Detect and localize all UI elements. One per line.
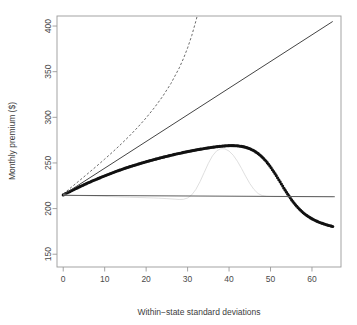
y-tick-label: 350: [43, 64, 53, 78]
x-axis-title: Within−state standard deviations: [137, 307, 260, 317]
x-tick-label: 0: [61, 274, 66, 284]
x-tick-label: 20: [141, 274, 151, 284]
x-tick-label: 30: [183, 274, 193, 284]
y-tick-label: 200: [43, 201, 53, 215]
y-tick-label: 150: [43, 247, 53, 261]
y-axis-title: Monthly premium ($): [7, 102, 17, 180]
chart-svg: 0102030405060 150200250300350400 Within−…: [0, 0, 357, 325]
x-tick-label: 50: [266, 274, 276, 284]
y-tick-label: 250: [43, 156, 53, 170]
x-tick-label: 10: [100, 274, 110, 284]
y-tick-label: 300: [43, 110, 53, 124]
chart-figure: 0102030405060 150200250300350400 Within−…: [0, 0, 357, 325]
y-tick-label: 400: [43, 19, 53, 33]
x-tick-label: 60: [307, 274, 317, 284]
x-tick-label: 40: [224, 274, 234, 284]
